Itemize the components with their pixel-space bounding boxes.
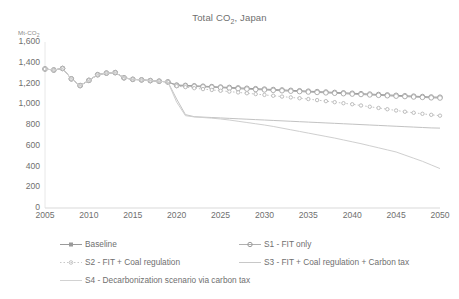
series-line <box>45 68 440 115</box>
series-marker <box>288 89 293 94</box>
data-series <box>43 67 441 118</box>
series-marker <box>263 93 266 96</box>
legend-label: S1 - FIT only <box>264 239 311 249</box>
legend-key-line-icon <box>239 258 261 267</box>
legend-label: S2 - FIT + Coal regulation <box>85 257 180 267</box>
series-marker <box>253 87 258 92</box>
data-series <box>43 66 443 100</box>
legend-item-s4[interactable]: S4 - Decarbonization scenario via carbon… <box>60 275 250 285</box>
series-line <box>45 68 440 128</box>
legend-item-baseline[interactable]: Baseline <box>60 239 117 249</box>
legend-label: S3 - FIT + Coal regulation + Carbon tax <box>264 257 409 267</box>
series-marker <box>272 94 275 97</box>
series-marker <box>421 112 424 115</box>
series-marker <box>210 88 213 91</box>
series-marker <box>245 92 248 95</box>
legend-item-s3[interactable]: S3 - FIT + Coal regulation + Carbon tax <box>239 257 409 267</box>
series-marker <box>350 92 355 97</box>
series-marker <box>403 110 406 113</box>
series-marker <box>201 87 204 90</box>
series-marker <box>403 94 408 99</box>
series-marker <box>184 85 187 88</box>
data-series <box>43 66 443 99</box>
series-marker <box>438 96 443 101</box>
series-marker <box>429 96 434 101</box>
chart-legend: Baseline S1 - FIT only S2 - FIT + Coal r… <box>0 236 459 296</box>
series-marker <box>175 84 178 87</box>
legend-label: S4 - Decarbonization scenario via carbon… <box>85 275 250 285</box>
axis-lines <box>45 42 440 208</box>
legend-item-s1[interactable]: S1 - FIT only <box>239 239 311 249</box>
series-marker <box>385 93 390 98</box>
series-marker <box>367 93 372 98</box>
legend-key-dotted-marker-icon <box>60 258 82 267</box>
series-marker <box>368 105 371 108</box>
series-marker <box>420 95 425 100</box>
series-marker <box>342 102 345 105</box>
series-marker <box>333 100 336 103</box>
series-marker <box>430 113 433 116</box>
series-marker <box>394 94 399 99</box>
series-marker <box>271 88 276 93</box>
series-marker <box>280 88 285 93</box>
series-marker <box>386 108 389 111</box>
series-marker <box>411 95 416 100</box>
series-marker <box>228 90 231 93</box>
series-marker <box>438 114 441 117</box>
legend-key-line-icon <box>60 276 82 285</box>
series-marker <box>351 103 354 106</box>
legend-item-s2[interactable]: S2 - FIT + Coal regulation <box>60 257 180 267</box>
series-marker <box>254 92 257 95</box>
series-marker <box>315 90 320 95</box>
data-series <box>45 68 440 128</box>
series-marker <box>297 89 302 94</box>
legend-label: Baseline <box>85 239 117 249</box>
series-marker <box>307 97 310 100</box>
series-marker <box>306 90 311 95</box>
series-marker <box>219 89 222 92</box>
series-marker <box>245 87 250 92</box>
series-marker <box>193 86 196 89</box>
series-marker <box>376 93 381 98</box>
series-marker <box>359 92 364 97</box>
series-marker <box>298 97 301 100</box>
series-marker <box>236 91 239 94</box>
series-marker <box>341 91 346 96</box>
series-marker <box>332 91 337 96</box>
series-marker <box>262 88 267 93</box>
data-series-layer <box>43 66 443 168</box>
series-marker <box>359 104 362 107</box>
series-marker <box>412 111 415 114</box>
series-marker <box>377 106 380 109</box>
series-marker <box>280 95 283 98</box>
legend-key-line-marker-icon <box>239 240 261 249</box>
series-marker <box>394 109 397 112</box>
legend-key-line-marker-icon <box>60 240 82 249</box>
chart-container: Total CO2, Japan Mt-CO2 02004006008001,0… <box>0 0 459 299</box>
series-marker <box>289 96 292 99</box>
series-marker <box>324 99 327 102</box>
series-marker <box>315 98 318 101</box>
series-marker <box>324 91 329 96</box>
